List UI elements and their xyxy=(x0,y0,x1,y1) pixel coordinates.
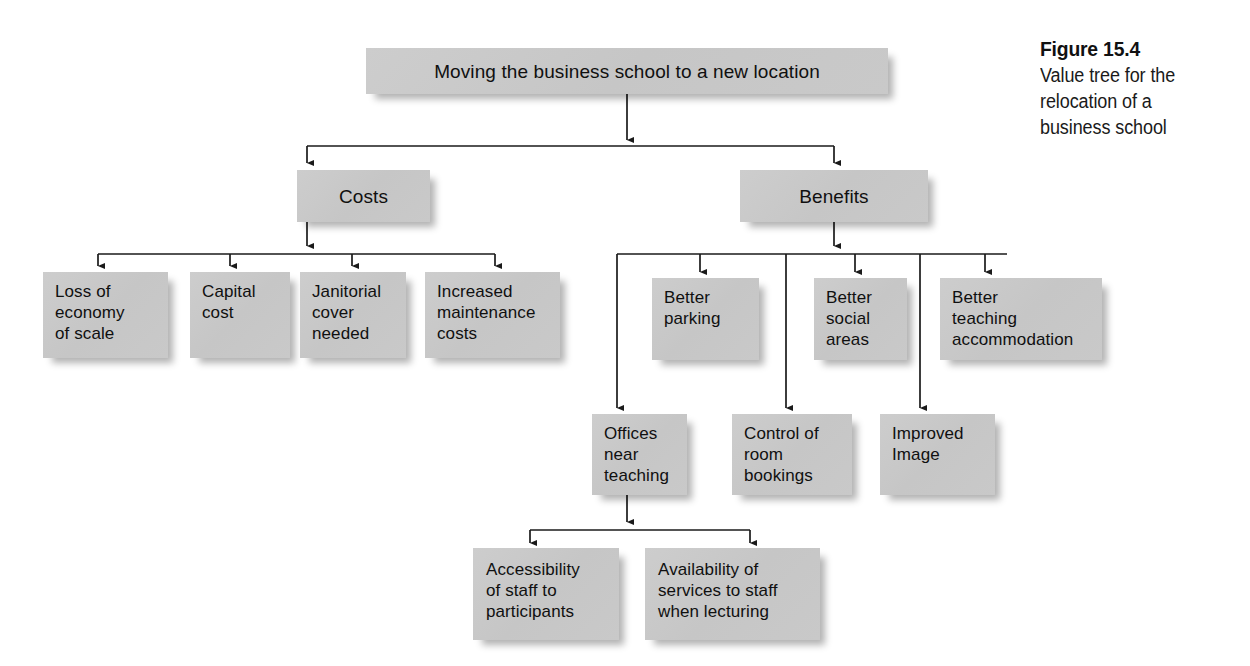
node-janitorial-cover-needed[interactable]: Janitorial cover needed xyxy=(300,272,406,358)
node-label: Offices near teaching xyxy=(604,423,669,486)
node-label: Control of room bookings xyxy=(744,423,819,486)
node-label: Janitorial cover needed xyxy=(312,281,381,344)
node-label: Better social areas xyxy=(826,287,872,350)
node-better-parking[interactable]: Better parking xyxy=(652,278,759,360)
node-label: Capital cost xyxy=(202,281,256,323)
figure-caption-text: Value tree for the relocation of a busin… xyxy=(1040,62,1225,140)
node-better-teaching-accommodation[interactable]: Better teaching accommodation xyxy=(940,278,1102,360)
node-benefits[interactable]: Benefits xyxy=(740,170,928,222)
figure-caption-block: Figure 15.4 Value tree for the relocatio… xyxy=(1040,36,1245,140)
node-label: Improved Image xyxy=(892,423,964,465)
node-accessibility-of-staff-to-participants[interactable]: Accessibility of staff to participants xyxy=(473,548,619,640)
node-benefits-label: Benefits xyxy=(799,186,868,207)
node-costs[interactable]: Costs xyxy=(297,170,430,222)
node-label: Increased maintenance costs xyxy=(437,281,535,344)
node-root[interactable]: Moving the business school to a new loca… xyxy=(366,48,888,94)
node-label: Accessibility of staff to participants xyxy=(486,559,580,622)
node-control-of-room-bookings[interactable]: Control of room bookings xyxy=(732,414,852,495)
node-label: Loss of economy of scale xyxy=(55,281,125,344)
node-offices-near-teaching[interactable]: Offices near teaching xyxy=(592,414,687,495)
value-tree-figure: Moving the business school to a new loca… xyxy=(0,0,1250,666)
node-improved-image[interactable]: Improved Image xyxy=(880,414,995,495)
node-label: Better parking xyxy=(664,287,720,329)
node-label: Availability of services to staff when l… xyxy=(658,559,778,622)
node-root-label: Moving the business school to a new loca… xyxy=(434,61,820,82)
node-label: Better teaching accommodation xyxy=(952,287,1073,350)
node-better-social-areas[interactable]: Better social areas xyxy=(814,278,907,360)
node-availability-of-services-to-staff[interactable]: Availability of services to staff when l… xyxy=(645,548,820,640)
node-increased-maintenance-costs[interactable]: Increased maintenance costs xyxy=(425,272,560,358)
node-capital-cost[interactable]: Capital cost xyxy=(190,272,290,358)
node-costs-label: Costs xyxy=(339,186,388,207)
figure-number: Figure 15.4 xyxy=(1040,36,1229,62)
node-loss-of-economy-of-scale[interactable]: Loss of economy of scale xyxy=(43,272,168,358)
